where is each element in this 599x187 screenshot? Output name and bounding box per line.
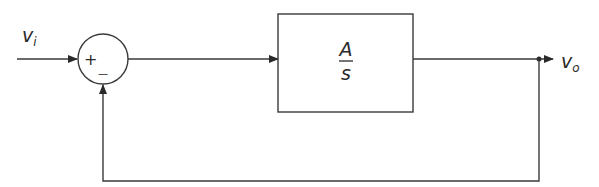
feedback-path xyxy=(103,59,539,181)
input-label: vi xyxy=(22,24,37,49)
output-label: vo xyxy=(561,50,580,75)
plus-sign: + xyxy=(84,50,97,69)
block-diagram: vi + — A s vo xyxy=(0,0,599,187)
block-numerator: A xyxy=(338,38,353,60)
minus-sign: — xyxy=(98,68,108,79)
block-denominator: s xyxy=(341,62,351,84)
